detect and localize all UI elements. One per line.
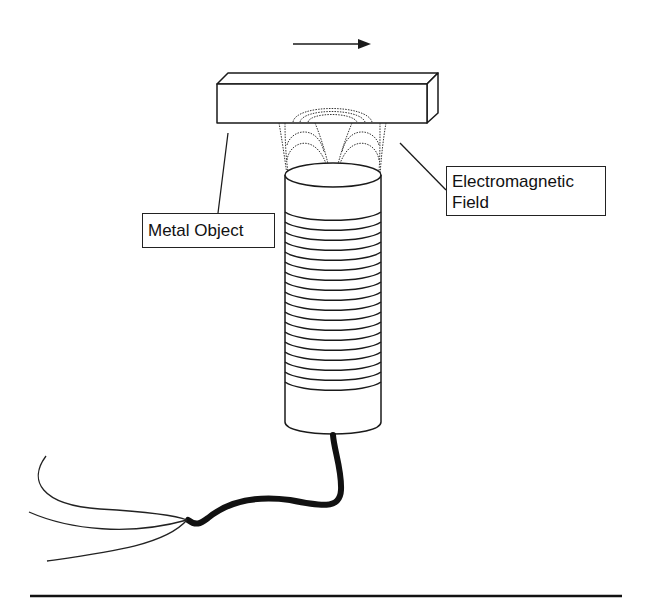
coil-winding <box>285 292 381 300</box>
coil-winding <box>285 302 381 310</box>
metal-object-leader-line <box>218 133 228 213</box>
coil-winding <box>285 262 381 270</box>
coil-winding <box>285 372 381 380</box>
coil-winding <box>285 332 381 340</box>
diagram-canvas <box>0 0 645 600</box>
metal-object-label-text: Metal Object <box>148 221 243 240</box>
coil-windings <box>285 212 381 390</box>
field-label-line2: Field <box>452 192 600 213</box>
coil-winding <box>285 342 381 350</box>
electromagnetic-field-label: Electromagnetic Field <box>446 166 606 216</box>
coil-winding <box>285 212 381 220</box>
coil-winding <box>285 362 381 370</box>
coil-winding <box>285 382 381 390</box>
coil-cylinder <box>285 163 381 434</box>
coil-cable <box>188 435 341 524</box>
coil-winding <box>285 312 381 320</box>
field-label-line1: Electromagnetic <box>452 171 600 192</box>
metal-object-bar <box>217 73 438 123</box>
coil-winding <box>285 282 381 290</box>
field-leader-line <box>400 143 446 190</box>
coil-winding <box>285 232 381 240</box>
coil-winding <box>285 242 381 250</box>
coil-winding <box>285 272 381 280</box>
motion-arrow-icon <box>293 39 371 49</box>
loose-wires <box>29 456 187 561</box>
coil-winding <box>285 252 381 260</box>
coil-winding <box>285 322 381 330</box>
coil-winding <box>285 222 381 230</box>
metal-object-label: Metal Object <box>142 213 275 248</box>
coil-winding <box>285 352 381 360</box>
